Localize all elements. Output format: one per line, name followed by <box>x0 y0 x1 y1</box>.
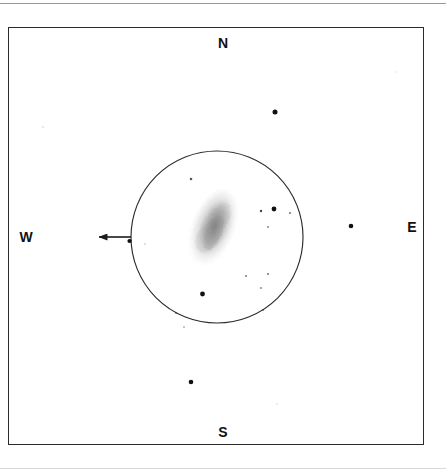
star-marker <box>144 243 146 245</box>
compass-label-north: N <box>0 36 446 50</box>
star-marker <box>272 207 277 212</box>
compass-label-south: S <box>0 425 446 439</box>
star-marker <box>200 292 205 297</box>
star-marker <box>349 224 354 229</box>
star-marker <box>395 71 396 72</box>
compass-label-east: E <box>400 220 424 234</box>
galaxy-smudge <box>178 182 247 274</box>
star-marker <box>183 326 185 328</box>
star-marker <box>289 212 291 214</box>
star-marker <box>127 239 131 243</box>
star-marker <box>267 273 269 275</box>
star-marker <box>273 110 278 115</box>
star-marker <box>189 380 194 385</box>
compass-label-west: W <box>14 230 38 244</box>
star-marker <box>267 226 269 228</box>
star-marker <box>260 287 262 289</box>
star-marker <box>262 309 264 311</box>
star-marker <box>245 275 247 277</box>
star-marker <box>175 312 177 314</box>
star-marker <box>190 178 193 181</box>
sketch-canvas <box>0 0 446 471</box>
sketch-page: N S W E <box>0 0 446 471</box>
star-marker <box>260 210 262 212</box>
star-marker <box>276 403 278 405</box>
star-marker <box>42 126 44 128</box>
